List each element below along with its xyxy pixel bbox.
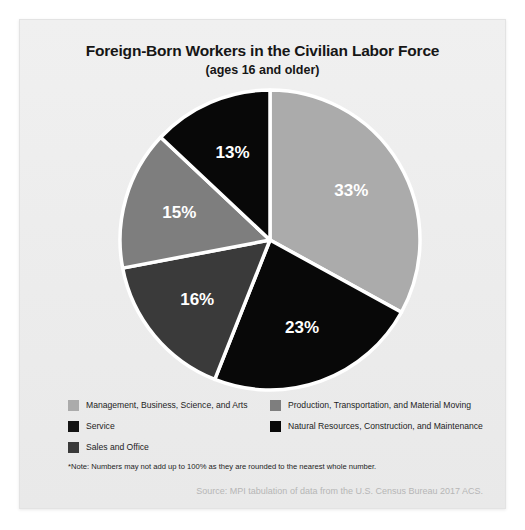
chart-card: Foreign-Born Workers in the Civilian Lab… — [19, 19, 506, 509]
pie-slice-label: 15% — [162, 203, 196, 222]
legend-label: Sales and Office — [86, 443, 149, 452]
pie-chart: 33%23%16%15%13% — [115, 85, 425, 395]
pie-slice-group — [120, 90, 420, 390]
legend-column-left: Management, Business, Science, and ArtsS… — [68, 395, 278, 458]
legend-label: Production, Transportation, and Material… — [288, 401, 471, 410]
legend-item: Natural Resources, Construction, and Mai… — [270, 416, 500, 436]
legend-item: Management, Business, Science, and Arts — [68, 395, 278, 415]
chart-source: Source: MPI tabulation of data from the … — [196, 486, 483, 496]
legend-item: Sales and Office — [68, 437, 278, 457]
legend-swatch — [68, 400, 79, 411]
legend-label: Service — [86, 422, 115, 431]
legend-label: Natural Resources, Construction, and Mai… — [288, 422, 483, 431]
legend-item: Production, Transportation, and Material… — [270, 395, 500, 415]
pie-slice-label: 16% — [180, 290, 214, 309]
legend-item: Service — [68, 416, 278, 436]
chart-note: *Note: Numbers may not add up to 100% as… — [68, 462, 376, 471]
pie-chart-svg: 33%23%16%15%13% — [115, 85, 425, 395]
legend-swatch — [68, 421, 79, 432]
pie-slice-label: 33% — [334, 181, 368, 200]
legend-column-right: Production, Transportation, and Material… — [270, 395, 500, 437]
legend-label: Management, Business, Science, and Arts — [86, 401, 247, 410]
chart-title: Foreign-Born Workers in the Civilian Lab… — [20, 42, 505, 60]
legend-swatch — [270, 400, 281, 411]
legend-swatch — [270, 421, 281, 432]
pie-slice-label: 23% — [285, 318, 319, 337]
chart-subtitle: (ages 16 and older) — [20, 63, 505, 77]
chart-card-container: Foreign-Born Workers in the Civilian Lab… — [0, 0, 525, 530]
legend-swatch — [68, 442, 79, 453]
pie-slice-label: 13% — [215, 143, 249, 162]
